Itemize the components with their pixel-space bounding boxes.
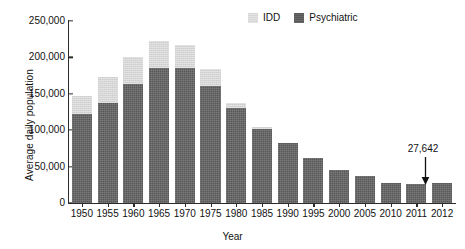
- bar-segment-psychiatric: [175, 68, 195, 203]
- x-axis-tick-label-1970: 1970: [174, 209, 196, 219]
- y-axis-tick: 150,000: [29, 89, 69, 99]
- y-axis-tick: 100,000: [29, 125, 69, 135]
- bar-segment-psychiatric: [200, 86, 220, 203]
- bar-segment-idd: [123, 57, 143, 84]
- y-axis-tick-mark: [69, 20, 73, 21]
- bar-1960[interactable]: [123, 57, 143, 203]
- y-axis-tick-label: 50,000: [34, 162, 69, 172]
- bar-segment-psychiatric: [149, 68, 169, 203]
- legend-label-idd: IDD: [263, 13, 280, 23]
- bar-segment-idd: [98, 77, 118, 102]
- legend-item-psychiatric: Psychiatric: [294, 13, 357, 23]
- x-axis-tick-mark: [82, 203, 83, 207]
- bar-segment-psychiatric: [303, 158, 323, 203]
- x-axis-tick-label-1980: 1980: [225, 209, 247, 219]
- bar-segment-psychiatric: [355, 176, 375, 203]
- x-axis-tick-label-2012: 2012: [431, 209, 453, 219]
- idd-swatch-icon: [248, 13, 258, 23]
- x-axis-tick-mark: [391, 203, 392, 207]
- bar-segment-idd: [226, 103, 246, 109]
- x-axis-tick-label-1950: 1950: [71, 209, 93, 219]
- x-axis-tick-mark: [185, 203, 186, 207]
- x-axis-tick-mark: [262, 203, 263, 207]
- chart-legend: IDD Psychiatric: [248, 13, 358, 23]
- y-axis-tick-label: 200,000: [29, 52, 69, 62]
- x-axis-tick-mark: [365, 203, 366, 207]
- bar-1995[interactable]: [303, 158, 323, 203]
- bar-1985[interactable]: [252, 127, 272, 203]
- x-axis-tick-mark: [416, 203, 417, 207]
- bar-segment-psychiatric: [72, 114, 92, 203]
- x-axis-tick-mark: [313, 203, 314, 207]
- x-axis-tick-label-2010: 2010: [380, 209, 402, 219]
- x-axis-tick-mark: [108, 203, 109, 207]
- x-axis-tick-label-1965: 1965: [148, 209, 170, 219]
- x-axis-tick-label-2005: 2005: [354, 209, 376, 219]
- y-axis-tick-mark: [69, 93, 73, 94]
- bar-1965[interactable]: [149, 41, 169, 203]
- x-axis-tick-mark: [442, 203, 443, 207]
- y-axis-tick: 50,000: [34, 162, 69, 172]
- x-axis-tick-label-2011: 2011: [406, 209, 428, 219]
- bar-segment-psychiatric: [226, 108, 246, 203]
- bar-1950[interactable]: [72, 96, 92, 203]
- bar-chart: Average daily population 050,000100,0001…: [0, 0, 465, 249]
- plot-area: 050,000100,000150,000200,000250,00019501…: [69, 21, 455, 203]
- bar-1980[interactable]: [226, 103, 246, 203]
- y-axis-tick: 250,000: [29, 16, 69, 26]
- x-axis-tick-mark: [211, 203, 212, 207]
- bar-segment-idd: [252, 127, 272, 129]
- y-axis-tick: 200,000: [29, 52, 69, 62]
- bar-segment-idd: [149, 41, 169, 67]
- x-axis-tick-mark: [288, 203, 289, 207]
- x-axis-title: Year: [0, 231, 465, 242]
- y-axis-tick-label: 0: [59, 198, 69, 208]
- psychiatric-swatch-icon: [294, 13, 304, 23]
- y-axis-tick: 0: [59, 198, 69, 208]
- bar-segment-psychiatric: [252, 129, 272, 203]
- bar-segment-psychiatric: [329, 170, 349, 203]
- bar-segment-psychiatric: [381, 183, 401, 203]
- x-axis-tick-label-1975: 1975: [199, 209, 221, 219]
- bar-segment-psychiatric: [278, 143, 298, 203]
- bar-segment-psychiatric: [432, 183, 452, 203]
- y-axis-tick-mark: [69, 57, 73, 58]
- legend-item-idd: IDD: [248, 13, 280, 23]
- bar-segment-psychiatric: [406, 184, 426, 203]
- x-axis-tick-label-1995: 1995: [302, 209, 324, 219]
- bar-1970[interactable]: [175, 45, 195, 203]
- bar-2005[interactable]: [355, 176, 375, 203]
- bar-segment-idd: [72, 96, 92, 114]
- x-axis-tick-label-1990: 1990: [277, 209, 299, 219]
- bar-1990[interactable]: [278, 143, 298, 203]
- x-axis-tick-label-2000: 2000: [328, 209, 350, 219]
- legend-label-psychiatric: Psychiatric: [309, 13, 357, 23]
- bar-2000[interactable]: [329, 170, 349, 203]
- y-axis-tick-label: 150,000: [29, 89, 69, 99]
- bar-segment-psychiatric: [123, 84, 143, 203]
- bar-1955[interactable]: [98, 77, 118, 203]
- x-axis-tick-mark: [133, 203, 134, 207]
- x-axis-tick-mark: [159, 203, 160, 207]
- x-axis-tick-label-1985: 1985: [251, 209, 273, 219]
- annotation-arrow-down-icon: [421, 157, 430, 185]
- bar-segment-idd: [175, 45, 195, 68]
- bar-2010[interactable]: [381, 183, 401, 203]
- annotation-value-2012: 27,642: [392, 143, 454, 154]
- y-axis-tick-label: 100,000: [29, 125, 69, 135]
- bar-2011[interactable]: [406, 184, 426, 203]
- x-axis-tick-label-1960: 1960: [122, 209, 144, 219]
- x-axis-tick-mark: [236, 203, 237, 207]
- bar-2012[interactable]: [432, 183, 452, 203]
- bar-1975[interactable]: [200, 69, 220, 203]
- bar-segment-psychiatric: [98, 103, 118, 203]
- x-axis-tick-label-1955: 1955: [96, 209, 118, 219]
- bar-segment-idd: [200, 69, 220, 86]
- x-axis-tick-mark: [339, 203, 340, 207]
- y-axis-tick-label: 250,000: [29, 16, 69, 26]
